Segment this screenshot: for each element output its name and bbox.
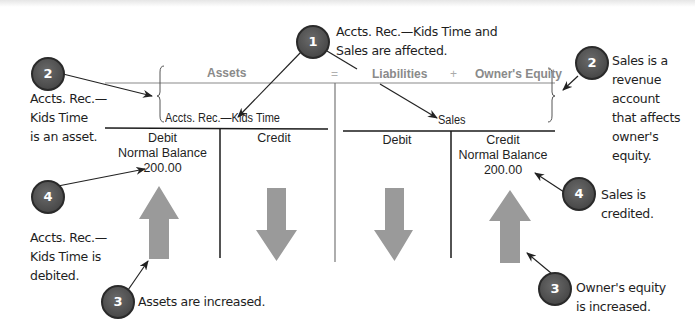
right-debit-label: Debit [343, 133, 451, 148]
callout-badge-2-left: 2 [31, 57, 65, 91]
callout-badge-2-right: 2 [575, 46, 609, 80]
left-debit-label: Debit [105, 131, 220, 146]
owners-equity-header: Owner's Equity [475, 67, 562, 81]
assets-header: Assets [207, 66, 246, 80]
left-debit-amount: 200.00 [105, 161, 220, 176]
liabilities-header: Liabilities [372, 67, 427, 81]
equals-sign: = [331, 67, 338, 81]
left-credit-label: Credit [220, 131, 328, 146]
left-t-top [105, 128, 328, 129]
right-credit-column: Credit Normal Balance 200.00 [451, 133, 555, 178]
callout-3-left-text: Assets are increased. [138, 292, 265, 311]
callout-2-right-text: Sales is a revenue account that affects … [612, 51, 680, 165]
callout-badge-3-right: 3 [538, 272, 572, 306]
callout-2-left-text: Accts. Rec.— Kids Time is an asset. [30, 89, 107, 146]
callout-badge-3-left: 3 [101, 285, 135, 319]
plus-sign: + [450, 67, 457, 81]
right-credit-amount: 200.00 [451, 163, 555, 178]
callout-badge-1: 1 [296, 25, 330, 59]
left-debit-column: Debit Normal Balance 200.00 [105, 131, 220, 176]
callout-1-text: Accts. Rec.—Kids Time and Sales are affe… [336, 22, 497, 60]
callout-badge-4-left: 4 [31, 180, 65, 214]
callout-3-right-text: Owner's equity is increased. [576, 278, 666, 316]
left-account-name: Accts. Rec.—Kids Time [165, 111, 280, 125]
right-credit-label: Credit [451, 133, 555, 148]
up-arrow-icon [139, 186, 179, 259]
callout-4-left-text: Accts. Rec.— Kids Time is debited. [30, 228, 107, 285]
right-credit-sublabel: Normal Balance [451, 148, 555, 163]
up-arrow-icon [489, 190, 531, 263]
down-arrow-icon [374, 188, 413, 261]
callout-4-right-text: Sales is credited. [601, 185, 654, 223]
left-debit-sublabel: Normal Balance [105, 146, 220, 161]
down-arrow-icon [256, 188, 297, 261]
callout-badge-4-right: 4 [562, 177, 596, 211]
right-account-name: Sales [438, 113, 466, 127]
